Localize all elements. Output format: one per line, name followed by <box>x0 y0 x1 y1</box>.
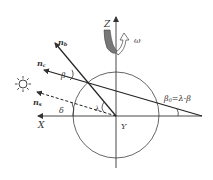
delta-label: δ <box>59 106 64 115</box>
diagram-canvas: Z X Y ω nb nc ns β δ λ β0=λ-β <box>0 0 213 180</box>
z-axis-label: Z <box>103 19 111 29</box>
n-c-label: nc <box>37 58 46 68</box>
lambda-label: λ <box>94 105 99 113</box>
y-axis-label: Y <box>121 122 127 131</box>
n-s-vector <box>37 92 116 116</box>
rotation-arrow-icon <box>104 30 129 55</box>
beta-label: β <box>60 71 66 80</box>
omega-label: ω <box>134 36 141 45</box>
sun-icon <box>15 76 31 92</box>
x-axis-label: X <box>37 120 45 130</box>
n-c-vector <box>44 70 202 116</box>
lambda-arc <box>102 102 104 112</box>
n-s-label: ns <box>33 97 42 107</box>
n-b-label: nb <box>58 37 68 47</box>
beta0-formula: β0=λ-β <box>163 94 191 103</box>
beta0-arc <box>177 109 178 116</box>
